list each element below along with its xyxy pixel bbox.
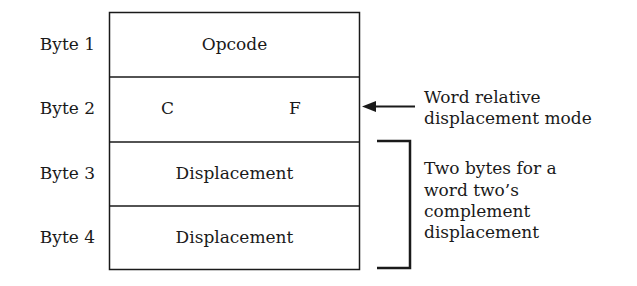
bracket-note-line-3: complement: [424, 201, 530, 221]
byte-4-cell: Displacement: [109, 206, 360, 270]
c-field-text: C: [161, 98, 174, 118]
byte-4-label: Byte 4: [0, 227, 95, 247]
opcode-text: Opcode: [109, 34, 360, 54]
byte-3-label: Byte 3: [0, 163, 95, 183]
displacement-text-1: Displacement: [109, 163, 360, 183]
bracket-note-line-2: word two’s: [424, 180, 519, 200]
right-bracket: [377, 141, 410, 268]
byte-1-label: Byte 1: [0, 34, 95, 54]
bracket-note-line-4: displacement: [424, 222, 539, 242]
bracket-note-line-1: Two bytes for a: [424, 158, 557, 178]
byte-2-label: Byte 2: [0, 98, 95, 118]
displacement-text-2: Displacement: [109, 227, 360, 247]
left-arrow-icon: [362, 101, 415, 112]
arrow-note-line-2: displacement mode: [424, 108, 592, 128]
byte-3-cell: Displacement: [109, 142, 360, 206]
f-field-text: F: [289, 98, 301, 118]
byte-1-cell: Opcode: [109, 12, 360, 77]
arrow-note-line-1: Word relative: [424, 87, 541, 107]
byte-2-cell: C F: [109, 77, 360, 142]
